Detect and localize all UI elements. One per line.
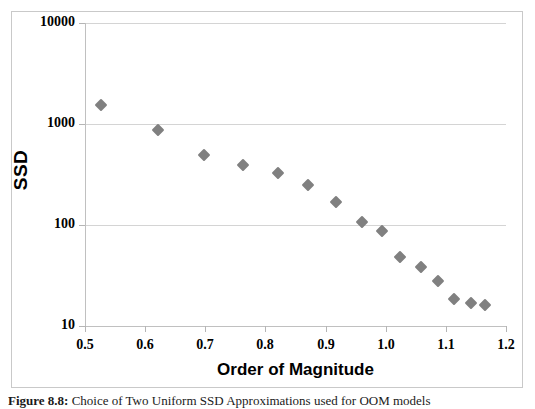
x-tick-label: 0.7 — [178, 337, 232, 353]
gridline-y-1000 — [85, 124, 506, 125]
y-axis-line — [85, 23, 86, 327]
figure-caption: Figure 8.8: Choice of Two Uniform SSD Ap… — [8, 393, 530, 409]
x-tick-label: 0.8 — [238, 337, 292, 353]
data-point — [302, 178, 315, 191]
x-tick-label: 0.5 — [58, 337, 112, 353]
data-point — [479, 299, 492, 312]
y-tick-label: 1000 — [20, 115, 75, 131]
x-tick-mark — [326, 326, 327, 332]
y-tick-label: 100 — [20, 216, 75, 232]
data-point — [415, 261, 428, 274]
x-tick-label: 1.2 — [479, 337, 533, 353]
data-point — [432, 274, 445, 287]
figure-caption-label: Figure 8.8: — [8, 393, 68, 408]
y-tick-label: 10 — [20, 317, 75, 333]
x-tick-mark — [386, 326, 387, 332]
data-point — [236, 159, 249, 172]
x-tick-mark — [145, 326, 146, 332]
data-point — [198, 148, 211, 161]
data-point — [464, 297, 477, 310]
gridline-y-100 — [85, 225, 506, 226]
data-point — [394, 251, 407, 264]
x-axis-line — [85, 326, 506, 327]
x-axis-title: Order of Magnitude — [85, 360, 506, 380]
x-tick-mark — [265, 326, 266, 332]
x-tick-mark — [446, 326, 447, 332]
data-point — [272, 166, 285, 179]
data-point — [151, 123, 164, 136]
x-tick-mark — [205, 326, 206, 332]
x-tick-label: 1.0 — [359, 337, 413, 353]
gridline-y-10000 — [85, 23, 506, 24]
figure-caption-text: Choice of Two Uniform SSD Approximations… — [72, 393, 431, 408]
x-tick-label: 0.6 — [118, 337, 172, 353]
data-point — [330, 196, 343, 209]
x-tick-label: 1.1 — [419, 337, 473, 353]
data-point — [95, 99, 108, 112]
data-point — [376, 224, 389, 237]
x-tick-mark — [506, 326, 507, 332]
x-tick-mark — [85, 326, 86, 332]
y-tick-label: 10000 — [20, 14, 75, 30]
y-axis-title: SSD — [10, 130, 32, 210]
data-point — [448, 293, 461, 306]
x-tick-label: 0.9 — [299, 337, 353, 353]
data-point — [356, 215, 369, 228]
